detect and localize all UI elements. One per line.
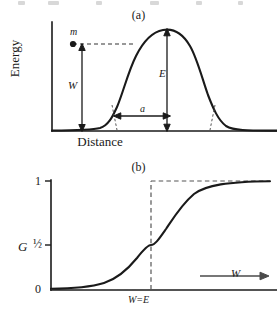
- y-tick-label-half: ½: [33, 238, 42, 250]
- y-tick-label-one: 1: [35, 175, 41, 187]
- threshold-label: W=E: [128, 295, 149, 305]
- panel-a-x-axis-label: Distance: [0, 135, 200, 148]
- figure-container: (a): [0, 0, 277, 319]
- panel-b-x-axis-label: W: [231, 268, 240, 279]
- work-function-label: W: [68, 80, 77, 91]
- barrier-width-label: a: [140, 104, 145, 114]
- panel-b: (b): [0, 158, 277, 319]
- W-measure-arrow: [79, 44, 85, 132]
- barrier-height-label: E: [159, 68, 166, 79]
- panel-a: (a): [0, 0, 277, 158]
- panel-a-y-axis-label: Energy: [8, 29, 21, 89]
- y-tick-label-zero: 0: [35, 283, 41, 295]
- panel-b-y-axis-label: G: [18, 240, 27, 253]
- particle-dot: [70, 41, 76, 47]
- particle-label: m: [70, 27, 77, 37]
